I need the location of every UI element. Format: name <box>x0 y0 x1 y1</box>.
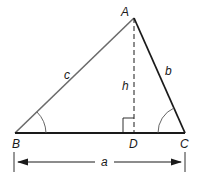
vertex-label-d: D <box>129 137 138 151</box>
side-b <box>134 18 185 133</box>
altitude-label-h: h <box>122 79 129 93</box>
right-angle-marker <box>123 118 134 133</box>
arrowhead-left-icon <box>17 159 28 166</box>
side-label-b: b <box>165 64 172 78</box>
vertex-label-c: C <box>180 137 189 151</box>
side-label-a: a <box>101 155 108 169</box>
side-label-c: c <box>64 68 70 82</box>
triangle-diagram: A B C D c b h a <box>0 0 202 181</box>
side-c <box>15 18 134 133</box>
angle-arc-c <box>158 108 174 133</box>
angle-arc-b <box>37 112 46 133</box>
vertex-label-a: A <box>120 5 129 19</box>
arrowhead-right-icon <box>171 159 182 166</box>
vertex-label-b: B <box>12 137 20 151</box>
